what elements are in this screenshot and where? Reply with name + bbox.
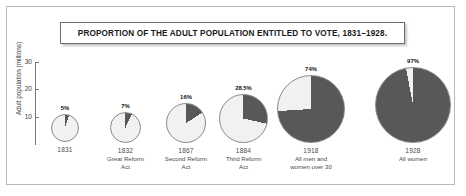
- y-tick-label-20: 20: [16, 85, 32, 92]
- pie-percent-1884: 28.5%: [235, 85, 252, 91]
- y-tick-20: [35, 89, 39, 90]
- pie-group-1884: 28.5% 1884 Third Reform Act: [219, 94, 268, 143]
- y-tick-10: [35, 117, 39, 118]
- pie-subtitle-1884: Third Reform Act: [206, 155, 282, 172]
- pie-subtitle-1928: All women: [375, 155, 451, 163]
- chart-figure: PROPORTION OF THE ADULT POPULATION ENTIT…: [0, 0, 466, 196]
- pie-caption-1918: 1918 All men and women over 30: [273, 146, 349, 172]
- y-tick-30: [35, 62, 39, 63]
- pie-percent-1832: 7%: [121, 103, 130, 109]
- pie-group-1831: 5% 1831: [51, 114, 79, 142]
- pie-chart-1918: [277, 75, 345, 143]
- pie-chart-1867: [166, 103, 206, 143]
- y-axis-line: [35, 62, 36, 145]
- chart-title: PROPORTION OF THE ADULT POPULATION ENTIT…: [78, 29, 387, 38]
- pie-percent-1928: 97%: [407, 58, 419, 64]
- y-tick-label-30: 30: [16, 58, 32, 65]
- pie-percent-1831: 5%: [61, 105, 70, 111]
- chart-title-box: PROPORTION OF THE ADULT POPULATION ENTIT…: [60, 22, 405, 44]
- y-axis-title: Adult population (millions): [15, 39, 22, 119]
- pie-chart-1884: [219, 94, 268, 143]
- pie-group-1928: 97% 1928 All women: [375, 67, 451, 143]
- pie-year-1928: 1928: [375, 146, 451, 155]
- pie-group-1832: 7% 1832 Great Reform Act: [110, 112, 141, 143]
- pie-caption-1928: 1928 All women: [375, 146, 451, 163]
- pie-caption-1884: 1884 Third Reform Act: [206, 146, 282, 172]
- y-tick-label-10: 10: [16, 113, 32, 120]
- pie-percent-1867: 16%: [180, 94, 192, 100]
- pie-chart-1831: [51, 114, 79, 142]
- pie-subtitle-1918: All men and women over 30: [273, 155, 349, 172]
- pie-group-1867: 16% 1867 Second Reform Act: [166, 103, 206, 143]
- pie-group-1918: 74% 1918 All men and women over 30: [277, 75, 345, 143]
- pie-year-1884: 1884: [206, 146, 282, 155]
- pie-chart-1832: [110, 112, 141, 143]
- pie-chart-1928: [375, 67, 451, 143]
- pie-percent-1918: 74%: [305, 66, 317, 72]
- pie-year-1918: 1918: [273, 146, 349, 155]
